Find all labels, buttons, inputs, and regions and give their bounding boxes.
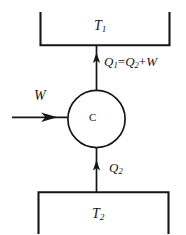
heat-in-symbol: Q <box>109 160 118 175</box>
heat-in-arrow <box>93 148 100 192</box>
work-term-symbol: W <box>146 54 157 69</box>
heat-in-subscript: 2 <box>118 166 122 176</box>
cold-reservoir-subscript: 2 <box>100 212 105 222</box>
heat-out-subscript: 1 <box>113 60 117 70</box>
heat-in-term-subscript: 2 <box>135 60 139 70</box>
hot-reservoir-subscript: 1 <box>102 24 107 34</box>
heat-out-symbol: Q <box>104 54 113 69</box>
heat-out-arrow <box>93 46 100 91</box>
hot-reservoir-symbol: T <box>94 18 102 33</box>
cycle-machine-circle <box>68 90 125 147</box>
hot-reservoir-label: T1 <box>94 19 106 33</box>
cycle-machine-label: C <box>89 112 96 123</box>
thermodynamic-cycle-figure: T1 Q1=Q2+W W C Q2 T2 <box>0 0 186 235</box>
work-input-label: W <box>34 89 46 103</box>
heat-out-equation-label: Q1=Q2+W <box>104 55 157 68</box>
heat-in-label: Q2 <box>109 161 123 174</box>
work-input-arrow <box>12 113 68 122</box>
heat-in-term-symbol: Q <box>125 54 134 69</box>
cold-reservoir-label: T2 <box>92 207 104 221</box>
cold-reservoir-symbol: T <box>92 206 100 221</box>
